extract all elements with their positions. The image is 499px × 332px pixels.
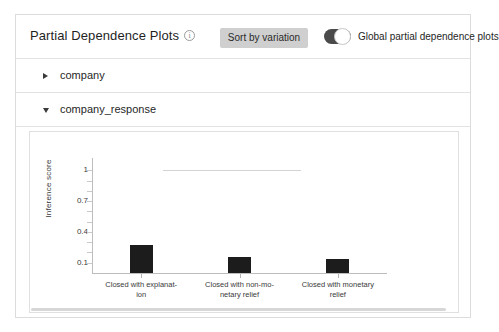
x-tick-label: Closed with monetaryrelief — [299, 280, 377, 300]
y-tick-label: 1 — [66, 165, 88, 174]
sort-by-variation-button[interactable]: Sort by variation — [220, 28, 308, 48]
x-tick-label: Closed with non-mo-netary relief — [201, 280, 279, 300]
y-axis-tick — [87, 211, 92, 212]
y-axis-tick — [87, 242, 92, 243]
x-axis-tick-labels: Closed with explanat-ionClosed with non-… — [92, 280, 392, 310]
info-icon[interactable]: i — [184, 30, 195, 41]
feature-row-company[interactable]: company — [16, 59, 470, 93]
reference-line — [163, 170, 302, 171]
chart-panel: Inference score 10.70.40.1 Closed with e… — [29, 131, 459, 313]
card-header: Partial Dependence Plots i Sort by varia… — [16, 15, 470, 59]
y-tick-label: 0.7 — [66, 196, 88, 205]
chevron-right-icon[interactable] — [43, 73, 48, 79]
pdp-bar-chart: Inference score 10.70.40.1 Closed with e… — [30, 132, 460, 314]
partial-dependence-plots-card: Partial Dependence Plots i Sort by varia… — [15, 14, 471, 318]
page-title: Partial Dependence Plots i — [30, 28, 195, 43]
y-axis-tick — [87, 201, 92, 202]
feature-label-company-response: company_response — [60, 103, 156, 115]
bar[interactable] — [326, 259, 349, 273]
x-axis-tick — [141, 274, 142, 278]
y-axis-tick — [87, 222, 92, 223]
global-pdp-toggle-label: Global partial dependence plots — [358, 31, 499, 42]
bars-layer — [92, 158, 387, 273]
feature-row-company-response[interactable]: company_response — [16, 93, 470, 127]
y-tick-label: 0.4 — [66, 227, 88, 236]
x-axis-tick — [240, 274, 241, 278]
y-axis-tick — [87, 232, 92, 233]
x-axis-tick — [338, 274, 339, 278]
bar[interactable] — [130, 245, 153, 273]
global-pdp-toggle[interactable] — [324, 29, 351, 44]
global-pdp-toggle-group[interactable]: Global partial dependence plots — [324, 29, 499, 44]
y-axis-title: Inference score — [44, 154, 53, 224]
page-title-text: Partial Dependence Plots — [30, 28, 179, 43]
chevron-down-icon[interactable] — [43, 108, 49, 113]
y-axis-tick — [87, 181, 92, 182]
toggle-knob — [334, 28, 351, 45]
y-axis-tick — [87, 263, 92, 264]
feature-label-company: company — [60, 69, 105, 81]
y-tick-label: 0.1 — [66, 258, 88, 267]
bar[interactable] — [228, 257, 251, 273]
horizontal-scrollbar[interactable] — [31, 308, 446, 311]
y-axis-tick — [87, 170, 92, 171]
x-tick-label: Closed with explanat-ion — [102, 280, 180, 300]
y-axis-tick-labels: 10.70.40.1 — [62, 132, 88, 314]
y-axis-tick — [87, 191, 92, 192]
y-axis-tick — [87, 252, 92, 253]
